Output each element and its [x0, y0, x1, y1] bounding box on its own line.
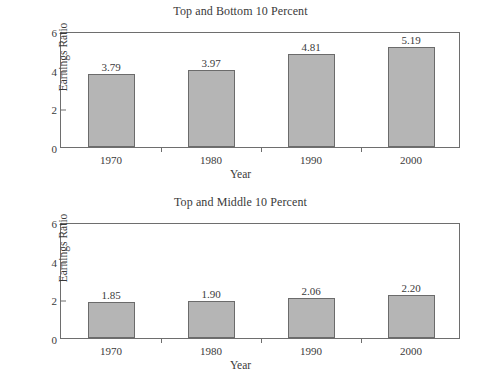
- y-tick-label: 6: [31, 218, 57, 230]
- x-tick-mark: [161, 338, 162, 343]
- x-tick-mark: [361, 147, 362, 152]
- bar: 2.20: [388, 295, 435, 338]
- bar: 3.97: [188, 70, 235, 147]
- y-tick-label: 2: [31, 104, 57, 116]
- x-axis-label: Year: [0, 359, 481, 371]
- bar: 1.85: [88, 302, 135, 338]
- bar-value-label: 2.20: [401, 282, 420, 294]
- chart-top-and-bottom: Top and Bottom 10 Percent Earnings Ratio…: [0, 0, 481, 190]
- y-tick-mark: [61, 262, 66, 263]
- x-tick-label: 1980: [181, 345, 241, 357]
- bar-value-label: 2.06: [301, 285, 320, 297]
- y-axis-label: Earnings Ratio: [57, 208, 69, 288]
- plot-area: Earnings Ratio 0246 1970198019902000 3.7…: [60, 32, 460, 148]
- chart-top-and-middle: Top and Middle 10 Percent Earnings Ratio…: [0, 191, 481, 381]
- x-tick-mark: [361, 338, 362, 343]
- x-tick-label: 1970: [81, 154, 141, 166]
- chart-title: Top and Middle 10 Percent: [0, 195, 481, 210]
- x-tick-label: 1990: [281, 154, 341, 166]
- y-tick-mark: [61, 301, 66, 302]
- y-tick-label: 4: [31, 257, 57, 269]
- x-tick-label: 1990: [281, 345, 341, 357]
- y-tick-label: 2: [31, 295, 57, 307]
- x-tick-label: 1980: [181, 154, 241, 166]
- bar-value-label: 3.97: [201, 57, 220, 69]
- x-tick-mark: [161, 147, 162, 152]
- y-tick-mark: [61, 71, 66, 72]
- bar-value-label: 3.79: [101, 61, 120, 73]
- x-tick-label: 2000: [381, 154, 441, 166]
- y-tick-label: 4: [31, 66, 57, 78]
- x-tick-mark: [261, 147, 262, 152]
- bar: 1.90: [188, 301, 235, 338]
- bar: 3.79: [88, 74, 135, 147]
- x-tick-mark: [261, 338, 262, 343]
- y-tick-label: 0: [31, 143, 57, 155]
- x-tick-label: 2000: [381, 345, 441, 357]
- bar: 5.19: [388, 47, 435, 147]
- plot-area: Earnings Ratio 0246 1970198019902000 1.8…: [60, 223, 460, 339]
- x-tick-label: 1970: [81, 345, 141, 357]
- y-axis-label: Earnings Ratio: [57, 17, 69, 97]
- bar-value-label: 1.85: [101, 289, 120, 301]
- bar-value-label: 1.90: [201, 288, 220, 300]
- bar: 2.06: [288, 298, 335, 338]
- bar: 4.81: [288, 54, 335, 147]
- y-tick-label: 6: [31, 27, 57, 39]
- chart-title: Top and Bottom 10 Percent: [0, 4, 481, 19]
- y-tick-mark: [61, 110, 66, 111]
- bar-value-label: 5.19: [401, 34, 420, 46]
- y-tick-label: 0: [31, 334, 57, 346]
- x-axis-label: Year: [0, 168, 481, 180]
- bar-value-label: 4.81: [301, 41, 320, 53]
